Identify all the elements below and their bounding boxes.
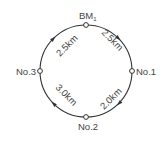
node-label-no1: No.1 — [136, 66, 156, 77]
leveling-loop-diagram: BM1 No.1 No.2 No.3 2.5km 2.0km 3.0km 2.5… — [0, 0, 168, 144]
node-label-no3: No.3 — [16, 66, 36, 77]
node-label-bm1: BM1 — [79, 10, 97, 22]
node-no2 — [84, 115, 89, 120]
distance-no2-no3: 3.0km — [54, 82, 80, 108]
node-bm1 — [84, 23, 89, 28]
distance-bm1-no1: 2.5km — [100, 27, 126, 53]
distance-no1-no2: 2.0km — [98, 85, 124, 111]
node-label-no2: No.2 — [78, 121, 98, 132]
distance-no3-bm1: 2.5km — [54, 32, 80, 58]
node-no1 — [130, 69, 135, 74]
node-no3 — [38, 69, 43, 74]
